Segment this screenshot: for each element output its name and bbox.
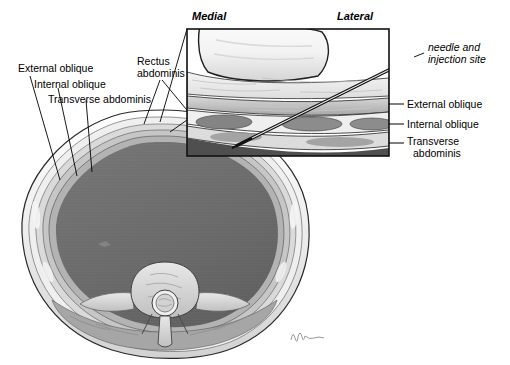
label-inset-external-oblique: External oblique [407,99,482,111]
needle-label-line1: needle and [428,41,480,53]
label-internal-oblique-main: Internal oblique [34,79,106,91]
inset-right-leaders [389,104,404,143]
illustration-canvas: External oblique Internal oblique Transv… [0,0,510,365]
label-rectus-line2: abdominis [137,67,185,79]
label-medial: Medial [192,11,226,23]
needle-label-leader [414,53,424,57]
label-rectus-line1: Rectus [137,55,170,67]
inset-io-belly-left [196,115,252,129]
inset-io-belly-right [350,118,394,130]
label-lateral: Lateral [337,11,373,23]
label-inset-internal-oblique: Internal oblique [407,119,479,131]
inset-ta-belly-right [306,137,374,147]
inset-ta-line2: abdominis [413,148,461,160]
inset-ta-line1: Transverse [407,135,459,147]
label-needle-injection-site: needle and injection site [428,42,504,65]
label-inset-transverse-abdominis: Transverse abdominis [407,136,479,159]
label-rectus-abdominis: Rectus abdominis [137,56,183,79]
artist-signature [291,333,324,341]
label-transverse-abdominis-main: Transverse abdominis [48,94,151,106]
needle-label-line2: injection site [428,53,486,65]
label-external-oblique-main: External oblique [18,63,93,75]
spinous-process [158,316,172,347]
spinal-cord [156,294,174,312]
